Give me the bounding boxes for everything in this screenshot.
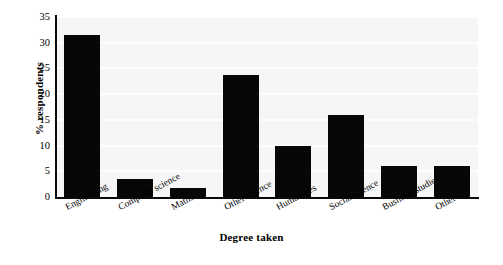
bar-chart-figure: % respondents 35302520151050 Engineering… — [0, 0, 503, 265]
y-tick-label: 5 — [22, 166, 50, 177]
y-tick-label: 20 — [22, 89, 50, 100]
y-axis-line — [55, 15, 57, 199]
bar — [328, 115, 364, 197]
bar — [64, 35, 100, 198]
y-axis-tick-labels: 35302520151050 — [22, 17, 50, 197]
y-tick-label: 0 — [22, 192, 50, 203]
y-tick-label: 35 — [22, 12, 50, 23]
y-tick-label: 10 — [22, 140, 50, 151]
y-tick-label: 15 — [22, 115, 50, 126]
bar — [223, 75, 259, 197]
x-axis-title: Degree taken — [0, 231, 503, 243]
y-tick-label: 30 — [22, 37, 50, 48]
x-axis-line — [55, 197, 479, 199]
y-tick-label: 25 — [22, 63, 50, 74]
bars-layer — [56, 17, 478, 197]
